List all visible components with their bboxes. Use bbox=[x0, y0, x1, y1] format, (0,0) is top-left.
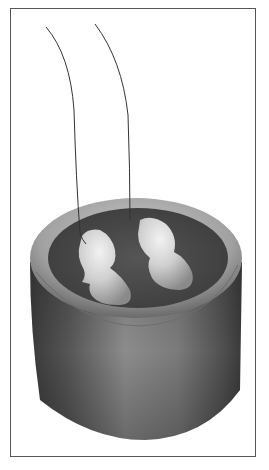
top-surface bbox=[48, 208, 228, 308]
illustration bbox=[0, 0, 269, 470]
wire-right bbox=[95, 24, 130, 220]
